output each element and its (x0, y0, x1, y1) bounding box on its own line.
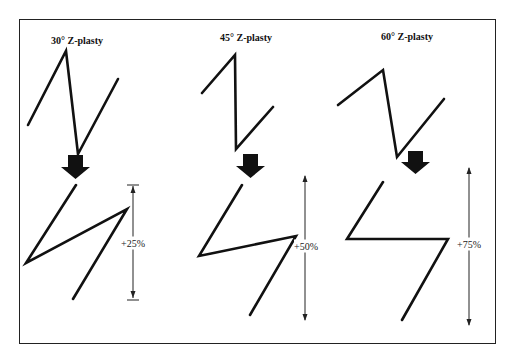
length-gain-60: +75% (457, 238, 481, 251)
z-transposed-45 (199, 185, 296, 315)
down-arrow-icon (236, 154, 265, 178)
z-incision-60 (338, 70, 444, 157)
z-incision-30 (28, 51, 118, 154)
transposition-arrows (61, 151, 430, 179)
length-gain-45: +50% (294, 240, 318, 253)
z-transposed-30 (26, 185, 127, 299)
down-arrow-icon (401, 151, 430, 174)
z-incision-45 (202, 55, 273, 149)
panel-title-30: 30° Z-plasty (51, 35, 103, 46)
length-gain-30: +25% (121, 237, 145, 250)
z-plasty-diagram (0, 0, 526, 360)
panel-title-45: 45° Z-plasty (220, 32, 272, 43)
panel-title-60: 60° Z-plasty (381, 31, 433, 42)
down-arrow-icon (61, 155, 90, 179)
z-transposed-60 (347, 182, 448, 320)
